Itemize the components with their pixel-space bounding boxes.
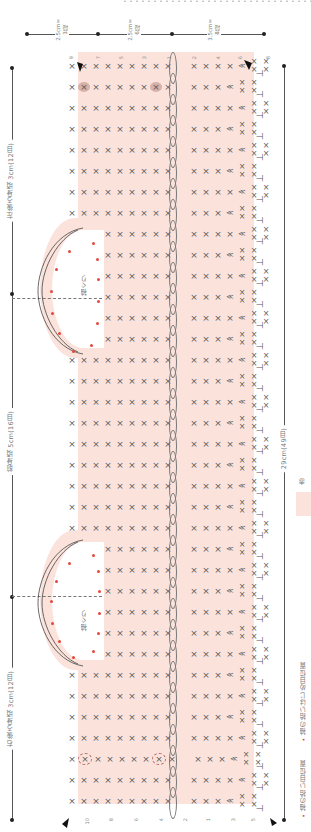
- stitch-increase: ≪: [236, 314, 248, 322]
- stitch-x: ×: [212, 565, 224, 575]
- stitch-row: ×××××××××≪××××: [66, 333, 260, 345]
- width-label: 29cm(49目): [279, 425, 289, 472]
- stitch-x: ×: [66, 208, 78, 218]
- stitch-x: ×: [212, 334, 224, 344]
- stitch-x-stack: ××: [240, 751, 252, 767]
- stitch-increase: ≪: [224, 167, 236, 175]
- stitch-increase: ≪: [236, 566, 248, 574]
- stitch-x: ×: [200, 355, 212, 365]
- stitch-x: ×: [78, 775, 90, 785]
- stitch-x: ×: [102, 418, 114, 428]
- stitch-x: ×: [188, 481, 200, 491]
- stitch-x: ×: [212, 607, 224, 617]
- stitch-x: ×: [200, 334, 212, 344]
- stitch-x: ×: [188, 523, 200, 533]
- legend-item: • 袖の拾い目位置: [299, 760, 309, 818]
- stitch-x: ×: [150, 712, 162, 722]
- row-number: 2: [182, 818, 188, 821]
- stitch-x: ×: [114, 376, 126, 386]
- stitch-x-stack: ××: [236, 499, 248, 515]
- stitch-x: ×: [102, 145, 114, 155]
- stitch-x: ×: [114, 670, 126, 680]
- stitch-row: ××××××××××××≪××××: [66, 753, 264, 765]
- stitch-x: ×: [90, 397, 102, 407]
- stitch-x: ×: [126, 628, 138, 638]
- stitch-x: ×: [114, 292, 126, 302]
- stitch-row: ×××××××××≪××××: [66, 249, 260, 261]
- stitch-x: ×: [90, 796, 102, 806]
- stitch-x: ×: [102, 670, 114, 680]
- stitch-x: ×: [126, 124, 138, 134]
- stitch-increase: ≪: [224, 461, 236, 469]
- stitch-x: ×: [150, 292, 162, 302]
- stitch-x: ×: [204, 754, 216, 764]
- stitch-x: ×: [114, 229, 126, 239]
- stitch-x: ×: [224, 775, 236, 785]
- stitch-x: ×: [78, 376, 90, 386]
- stitch-x: ×: [102, 208, 114, 218]
- row-number: 4: [158, 818, 164, 821]
- stitch-x: ×: [66, 82, 78, 92]
- stitch-x: ×: [200, 649, 212, 659]
- stitch-x: ×: [224, 313, 236, 323]
- stitch-x: ×: [188, 271, 200, 281]
- stitch-x: ×: [150, 313, 162, 323]
- stitch-x: ×: [138, 313, 150, 323]
- pickup-dot-icon: •: [300, 813, 308, 817]
- stitch-x: ×: [212, 397, 224, 407]
- stitch-x: ×: [102, 712, 114, 722]
- stitch-row: ×××××××××≪××××: [66, 627, 260, 639]
- stitch-increase: ≪: [236, 776, 248, 784]
- stitch-x: ×: [102, 313, 114, 323]
- stitch-x: ×: [200, 82, 212, 92]
- stitch-increase: ≪: [224, 419, 236, 427]
- stitch-x: ×: [90, 103, 102, 113]
- stitch-increase: ≪: [224, 797, 236, 805]
- stitch-x: ×: [224, 565, 236, 575]
- row-number: 1: [205, 818, 211, 821]
- stitch-x: ×: [150, 544, 162, 554]
- half-double-stitch: ⊢: [256, 404, 264, 414]
- stitch-increase: ≪: [224, 713, 236, 721]
- stitch-row: ×××××××××≪××××: [66, 585, 260, 597]
- stitch-x: ×: [90, 376, 102, 386]
- stitch-x: ×: [66, 397, 78, 407]
- half-double-stitch: ⊢: [256, 719, 264, 729]
- stitch-x: ×: [212, 292, 224, 302]
- stitch-x: ×: [188, 208, 200, 218]
- stitch-x: ×: [138, 187, 150, 197]
- stitch-x: ×: [102, 439, 114, 449]
- half-double-stitch: ⊢: [256, 761, 264, 771]
- stitch-x: ×: [66, 502, 78, 512]
- stitch-increase: ≪: [228, 755, 240, 763]
- stitch-x: ×: [200, 439, 212, 449]
- stitch-x: ×: [150, 628, 162, 638]
- stitch-x: ×: [138, 61, 150, 71]
- stitch-increase: ≪: [236, 650, 248, 658]
- stitch-x: ×: [90, 208, 102, 218]
- stitch-x: ×: [126, 208, 138, 218]
- stitch-x: ×: [200, 544, 212, 554]
- stitch-x: ×: [138, 334, 150, 344]
- row-number: 5: [118, 56, 124, 59]
- stitch-x: ×: [78, 145, 90, 155]
- stitch-x: ×: [200, 229, 212, 239]
- stitch-x: ×: [78, 670, 90, 680]
- stitch-x: ×: [102, 103, 114, 113]
- stitch-x: ×: [138, 649, 150, 659]
- stitch-x: ×: [212, 229, 224, 239]
- stitch-x: ×: [150, 691, 162, 701]
- stitch-x: ×: [102, 124, 114, 134]
- stitch-x: ×: [78, 753, 92, 765]
- stitch-x: ×: [102, 502, 114, 512]
- ruler-tick: [25, 32, 29, 36]
- stitch-increase: ≪: [236, 356, 248, 364]
- stitch-x: ×: [138, 397, 150, 407]
- stitch-x: ×: [102, 796, 114, 806]
- row-number: 6: [133, 818, 139, 821]
- stitch-x: ×: [150, 565, 162, 575]
- half-double-stitch: ⊢: [256, 467, 264, 477]
- stitch-x: ×: [114, 166, 126, 176]
- stitch-x: ×: [90, 775, 102, 785]
- stitch-x: ×: [188, 460, 200, 470]
